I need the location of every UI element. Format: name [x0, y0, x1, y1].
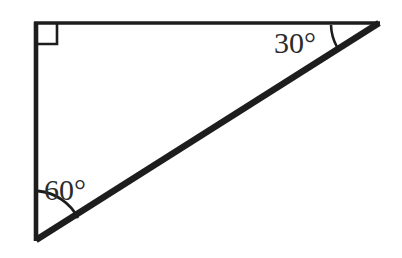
angle-label-30: 30°: [274, 28, 316, 58]
geometry-figure: 30° 60°: [0, 0, 402, 258]
right-triangle-svg: [0, 0, 402, 258]
angle-label-60: 60°: [44, 175, 86, 205]
